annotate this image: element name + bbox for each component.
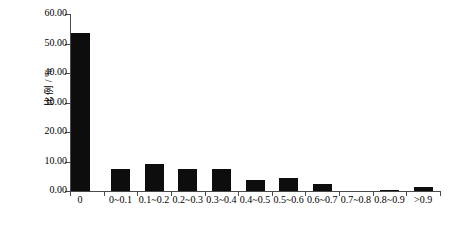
bar [380, 190, 399, 191]
x-tick-label: 0~0.1 [109, 194, 132, 205]
y-axis-label: 比例 / % [41, 52, 55, 122]
x-tick-label: 0.3~0.4 [206, 194, 236, 205]
x-axis-labels: 00~0.10.1~0.20.2~0.30.3~0.40.4~0.50.5~0.… [62, 194, 452, 210]
bar [414, 187, 433, 191]
bar [111, 169, 130, 191]
y-tick-label: 30.00 [27, 96, 67, 107]
bar [279, 178, 298, 191]
bar [178, 169, 197, 191]
y-tick-label: 40.00 [27, 66, 67, 77]
x-tick-label: 0 [78, 194, 83, 205]
x-tick-label: 0.2~0.3 [173, 194, 203, 205]
bar [246, 180, 265, 191]
x-tick-label: 0.6~0.7 [307, 194, 337, 205]
y-tick-label: 20.00 [27, 125, 67, 136]
bar [313, 184, 332, 191]
bar [212, 169, 231, 191]
x-tick-label: >0.9 [414, 194, 432, 205]
x-tick-label: 0.1~0.2 [139, 194, 169, 205]
y-tick-label: 60.00 [27, 7, 67, 18]
x-tick-label: 0.8~0.9 [374, 194, 404, 205]
x-tick-label: 0.5~0.6 [273, 194, 303, 205]
x-tick-label: 0.7~0.8 [341, 194, 371, 205]
y-tick-label: 10.00 [27, 155, 67, 166]
y-tick: 60.00 [70, 14, 71, 15]
bar [145, 164, 164, 191]
plot-area: 0.0010.0020.0030.0040.0050.0060.00 [70, 14, 440, 192]
x-tick-label: 0.4~0.5 [240, 194, 270, 205]
y-tick-label: 0.00 [27, 184, 67, 195]
x-axis-line [70, 191, 440, 192]
y-tick-label: 50.00 [27, 37, 67, 48]
bar-chart: 比例 / % 0.0010.0020.0030.0040.0050.0060.0… [0, 0, 463, 228]
bar [71, 33, 90, 191]
